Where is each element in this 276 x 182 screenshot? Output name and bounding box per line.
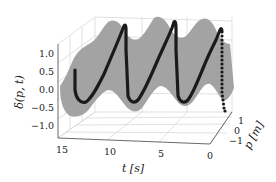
svg-text:1: 1 — [238, 115, 244, 126]
y-axis-label: p [m] — [241, 119, 267, 152]
x-axis-label: t [s] — [122, 162, 145, 175]
z-axis-ticks: 1.0 0.5 0.0 −0.5 −1.0 — [31, 48, 54, 131]
svg-text:15: 15 — [56, 144, 68, 155]
svg-text:−1.0: −1.0 — [31, 120, 54, 131]
z-axis-label: δ(p, t) — [13, 75, 26, 109]
svg-text:0.5: 0.5 — [39, 66, 54, 77]
svg-text:−0.5: −0.5 — [31, 102, 54, 113]
svg-text:1.0: 1.0 — [39, 48, 54, 59]
svg-text:0: 0 — [207, 150, 213, 161]
svg-text:0: 0 — [234, 125, 240, 136]
3d-chart: 1.0 0.5 0.0 −0.5 −1.0 δ(p, t) 15 10 5 0 … — [0, 0, 276, 182]
svg-text:5: 5 — [158, 148, 164, 159]
y-axis-ticks: −1 0 1 — [229, 115, 244, 146]
svg-text:0.0: 0.0 — [39, 84, 54, 95]
svg-text:10: 10 — [104, 146, 116, 157]
x-axis-ticks: 15 10 5 0 — [56, 144, 213, 161]
